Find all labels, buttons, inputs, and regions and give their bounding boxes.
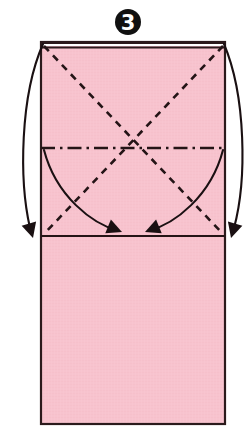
step-number-badge: 3 <box>115 9 141 35</box>
folded-top-edge <box>41 43 225 48</box>
origami-diagram-svg: 3 <box>0 0 251 446</box>
paper-fill-rect <box>41 42 225 424</box>
paper-sheet <box>41 42 225 424</box>
step-badge-outer-circle <box>115 9 141 35</box>
origami-diagram-root: 3 <box>0 0 251 446</box>
